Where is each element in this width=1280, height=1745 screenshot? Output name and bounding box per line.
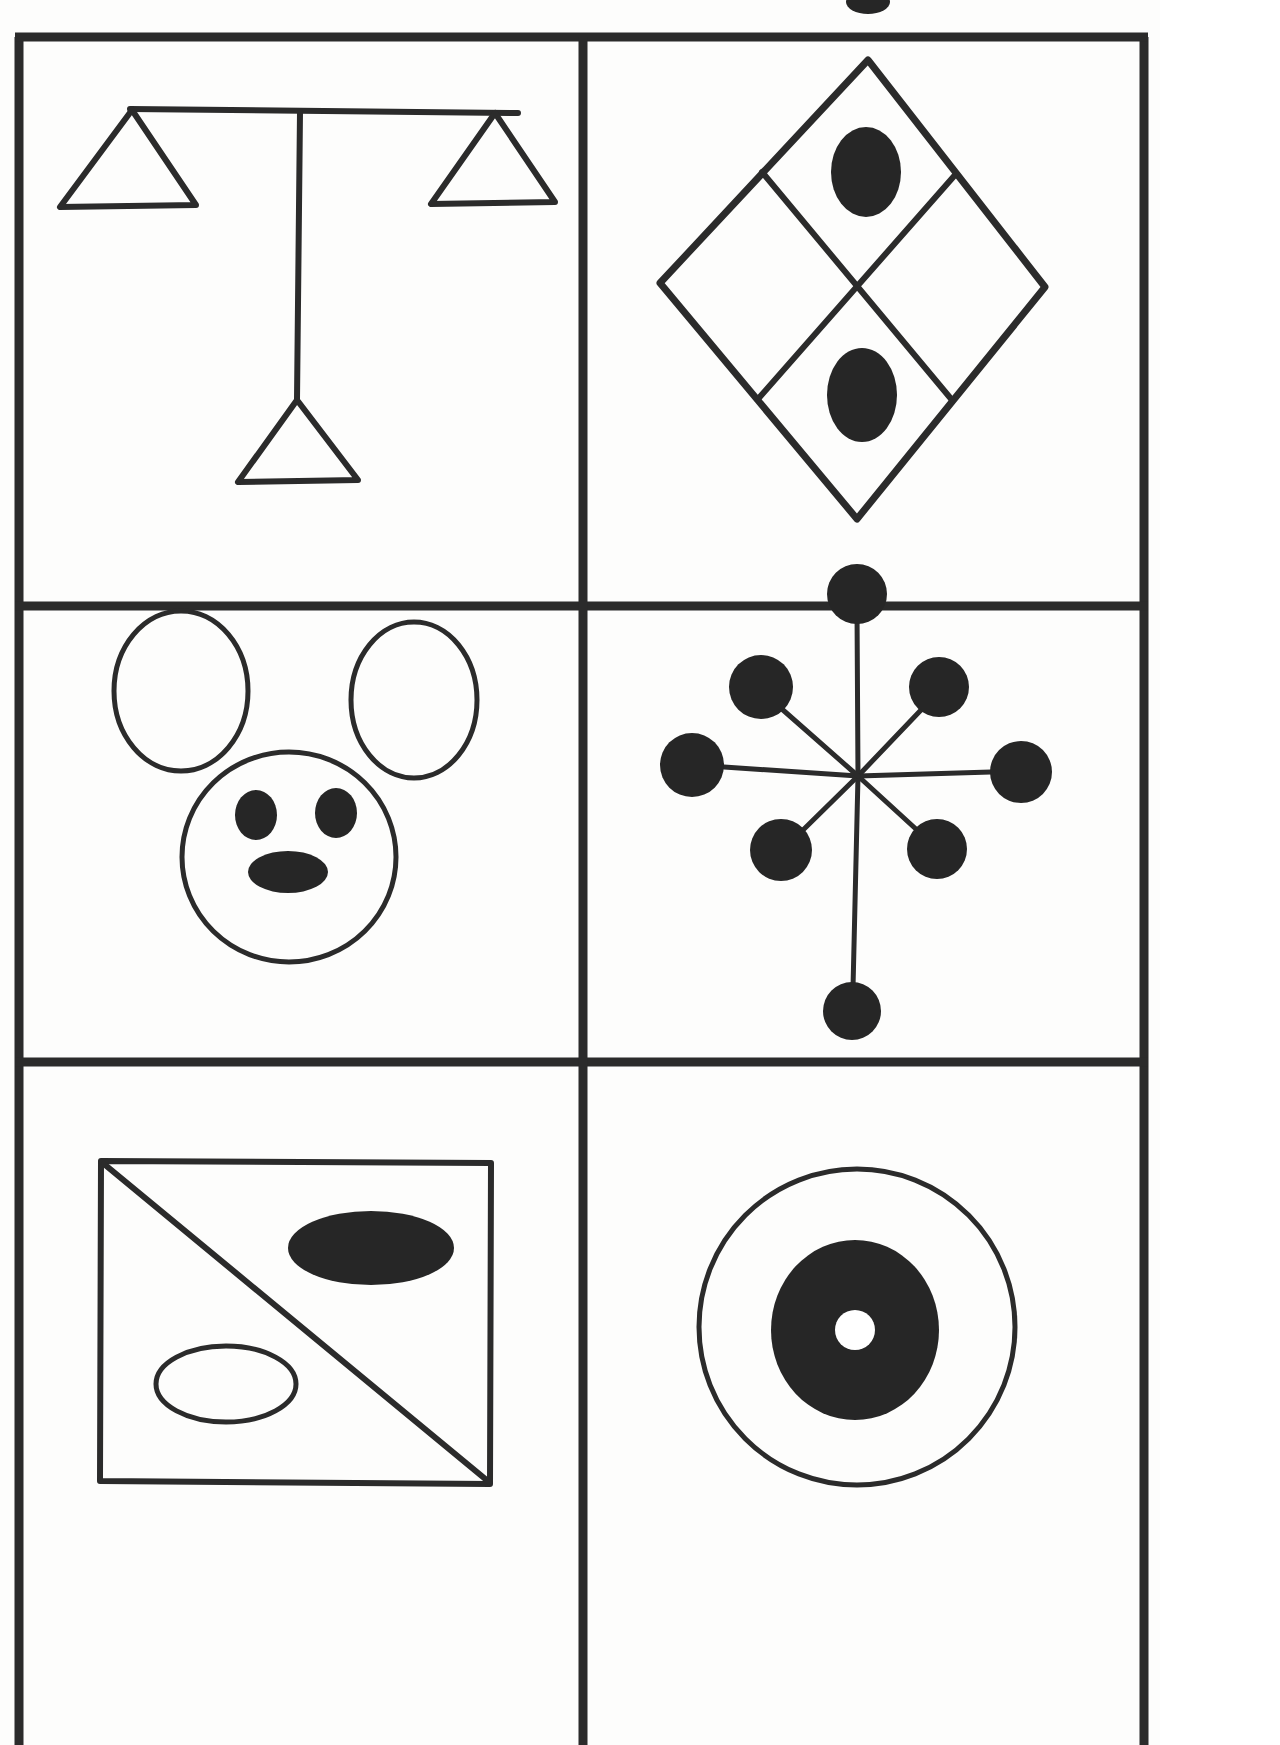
centre-white-dot xyxy=(835,1310,875,1350)
filled-ellipse xyxy=(288,1211,454,1285)
spoke-down-left-dot xyxy=(750,819,812,881)
spoke-up-dot xyxy=(827,564,887,624)
panel-6-bullseye-target[interactable] xyxy=(590,1068,1138,1738)
spoke-up-left-dot xyxy=(729,655,793,719)
spoke-up-right-dot xyxy=(909,657,969,717)
panel-4-eight-spoke-dot-star[interactable] xyxy=(590,564,1138,1058)
right-eye xyxy=(315,788,357,838)
spoke-right-dot xyxy=(990,741,1052,803)
panel-1-balance-scale[interactable] xyxy=(24,42,578,601)
panel-5-square-diagonal-ovals[interactable] xyxy=(24,1068,578,1738)
panel-2-quartered-diamond[interactable] xyxy=(590,42,1138,601)
spoke-down-right-dot xyxy=(907,819,967,879)
nose xyxy=(248,851,328,893)
spoke-up-line xyxy=(857,610,858,776)
figure-grid-canvas xyxy=(0,0,1160,1745)
left-eye xyxy=(235,790,277,840)
panel-3-mouse-face[interactable] xyxy=(24,611,578,1058)
top-quadrant-oval xyxy=(831,127,901,217)
center-stem xyxy=(297,112,300,400)
spoke-left-dot xyxy=(660,733,724,797)
spoke-down-dot xyxy=(823,982,881,1040)
bottom-quadrant-oval xyxy=(827,348,897,442)
panel-3-hit-area[interactable] xyxy=(24,612,578,1058)
worksheet-sheet xyxy=(0,0,1160,1745)
panel-2-hit-area[interactable] xyxy=(590,42,1138,601)
scale-beam xyxy=(130,109,518,113)
